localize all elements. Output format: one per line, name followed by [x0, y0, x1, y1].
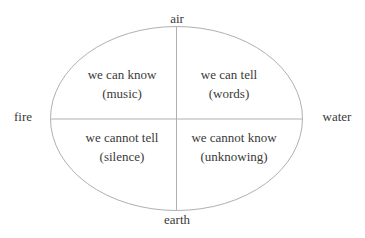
label-water: water: [323, 110, 352, 123]
label-earth: earth: [164, 213, 190, 226]
quadrant-bottom-left-line2: (silence): [100, 150, 145, 163]
quadrant-bottom-right-line2: (unknowing): [200, 150, 267, 163]
label-fire: fire: [14, 110, 32, 123]
quadrant-top-right-line1: we can tell: [201, 68, 257, 81]
quadrant-bottom-right-line1: we cannot know: [191, 131, 276, 144]
diagram-shapes: [0, 0, 365, 238]
label-air: air: [170, 12, 184, 25]
quadrant-top-left-line2: (music): [102, 87, 142, 100]
quadrant-top-left-line1: we can know: [88, 68, 157, 81]
quadrant-bottom-left-line1: we cannot tell: [86, 131, 159, 144]
quadrant-top-right-line2: (words): [209, 87, 249, 100]
